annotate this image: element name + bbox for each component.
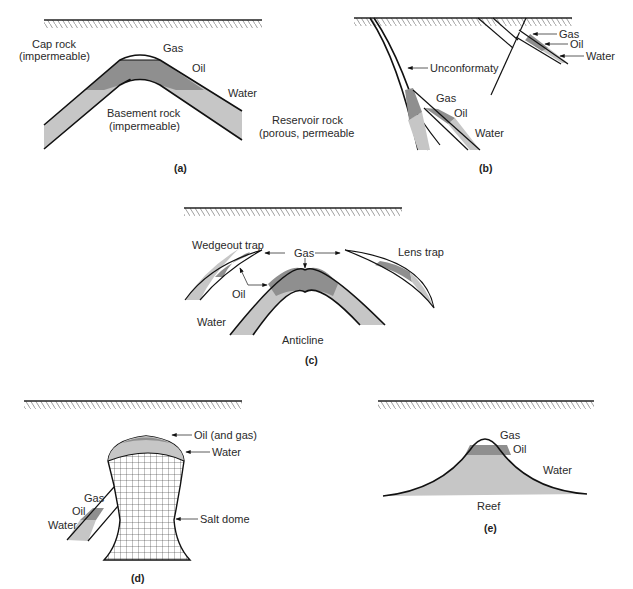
label-gas: Gas xyxy=(500,429,521,441)
label-reservoir-rock: Reservoir rock xyxy=(272,114,343,126)
label-water: Water xyxy=(475,127,504,139)
caption-c: (c) xyxy=(305,354,318,366)
traps-diagram: Cap rock (impermeable) Gas Oil Water Bas… xyxy=(0,0,633,589)
ground-surface xyxy=(24,401,242,409)
label-oil: Oil xyxy=(232,288,245,300)
label-cap-rock: Cap rock xyxy=(32,38,77,50)
label-oil: Oil xyxy=(454,107,467,119)
label-reef: Reef xyxy=(477,500,501,512)
label-oil: Oil xyxy=(72,505,85,517)
label-basement-impermeable: (impermeable) xyxy=(109,120,180,132)
petroleum-traps-figure: Cap rock (impermeable) Gas Oil Water Bas… xyxy=(0,0,633,589)
label-unconformity: Unconformaty xyxy=(430,62,499,74)
label-gas: Gas xyxy=(436,92,457,104)
panel-c-stratigraphic-traps: Gas Wedgeout trap Lens trap Oil Water An… xyxy=(184,208,444,366)
caption-b: (b) xyxy=(479,162,492,174)
label-oil: Oil xyxy=(192,62,205,74)
label-water: Water xyxy=(543,464,572,476)
label-water-top: Water xyxy=(212,446,241,458)
caption-e: (e) xyxy=(484,522,497,534)
label-water: Water xyxy=(228,87,257,99)
unconformity-line-1 xyxy=(370,18,418,150)
label-oil-upper: Oil xyxy=(570,38,583,50)
label-lens-trap: Lens trap xyxy=(398,246,444,258)
ground-surface xyxy=(44,20,262,28)
label-wedgeout-trap: Wedgeout trap xyxy=(192,239,264,251)
label-water: Water xyxy=(197,316,226,328)
oil-zone-dip xyxy=(425,108,455,124)
fault-line xyxy=(491,18,526,95)
panel-b-fault-unconformity: Unconformaty Gas Oil Water Gas Oil Water… xyxy=(354,18,615,174)
label-basement-rock: Basement rock xyxy=(107,107,181,119)
label-oil-and-gas: Oil (and gas) xyxy=(194,429,257,441)
ground-surface xyxy=(354,18,572,26)
label-water: Water xyxy=(48,519,77,531)
label-reservoir-porous: (porous, permeable xyxy=(259,127,354,139)
caption-d: (d) xyxy=(131,572,144,584)
panel-e-reef: Gas Oil Water Reef (e) xyxy=(378,401,594,534)
label-gas: Gas xyxy=(84,492,105,504)
ground-surface xyxy=(184,208,402,216)
label-salt-dome: Salt dome xyxy=(200,513,250,525)
lens-oil xyxy=(375,261,412,282)
panel-d-salt-dome: Oil (and gas) Water Salt dome Gas Oil Wa… xyxy=(24,401,257,584)
caption-a: (a) xyxy=(174,162,187,174)
label-water-upper: Water xyxy=(586,50,615,62)
label-anticline: Anticline xyxy=(282,334,324,346)
label-cap-rock-impermeable: (impermeable) xyxy=(19,50,90,62)
label-oil: Oil xyxy=(513,443,526,455)
ground-surface xyxy=(378,401,594,409)
label-gas: Gas xyxy=(163,42,184,54)
panel-a-anticline: Cap rock (impermeable) Gas Oil Water Bas… xyxy=(19,20,354,174)
label-gas: Gas xyxy=(294,247,315,259)
